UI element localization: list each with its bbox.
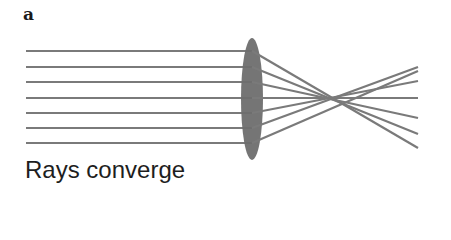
caption: Rays converge [25,156,185,184]
incoming-rays [26,51,252,143]
refracted-rays [252,51,418,148]
